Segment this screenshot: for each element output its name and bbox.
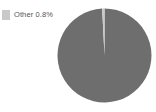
pie-svg xyxy=(57,8,152,104)
chart-legend: Other 0.8% xyxy=(2,10,53,20)
pie-chart-figure: Other 0.8% xyxy=(0,0,156,112)
legend-swatch-other-icon xyxy=(2,10,10,20)
pie-plot-area xyxy=(57,8,152,104)
legend-label-other: Other 0.8% xyxy=(14,10,53,20)
legend-item-other[interactable]: Other 0.8% xyxy=(2,10,53,20)
pie-slice-group xyxy=(57,9,151,103)
